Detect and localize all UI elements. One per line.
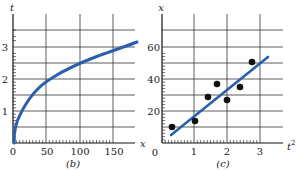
chart-c-points	[169, 59, 256, 131]
chart-c: 60 40 20 0 1 2 3 x t2 (c)	[147, 2, 295, 169]
chart-b-axes	[13, 14, 135, 143]
data-point	[205, 94, 212, 101]
data-point	[224, 97, 231, 104]
chart-b-grid	[13, 14, 135, 143]
chart-c-xtick-1: 1	[191, 146, 197, 157]
chart-b-ytick-1: 1	[2, 106, 8, 117]
chart-b-xlabel: x	[140, 138, 146, 149]
chart-b-ytick-3: 3	[2, 42, 8, 53]
chart-c-axes	[162, 14, 283, 143]
chart-b-xtick-50: 50	[41, 146, 54, 157]
chart-b-xtick-150: 150	[104, 146, 123, 157]
chart-b-caption: (b)	[66, 158, 80, 169]
chart-b-xtick-0: 0	[10, 146, 16, 157]
chart-c-caption: (c)	[216, 158, 230, 169]
chart-c-xlabel: t2	[287, 139, 296, 152]
chart-b: 3 2 1 0 50 100 150 t x (b)	[2, 2, 146, 169]
chart-c-xtick-2: 2	[224, 146, 230, 157]
data-point	[237, 84, 244, 91]
chart-b-ytick-2: 2	[2, 74, 8, 85]
data-point	[169, 124, 176, 131]
chart-c-ytick-60: 60	[147, 42, 160, 53]
chart-c-fit-line	[171, 57, 268, 135]
chart-c-xlabel-sup: 2	[291, 139, 295, 147]
chart-c-xtick-3: 3	[257, 146, 263, 157]
chart-c-grid	[162, 14, 283, 143]
chart-c-ytick-20: 20	[147, 106, 160, 117]
data-point	[249, 59, 256, 66]
chart-c-xtick-0: 0	[152, 147, 158, 158]
chart-b-curve	[14, 42, 137, 143]
data-point	[192, 118, 199, 125]
chart-b-xtick-100: 100	[70, 146, 89, 157]
figure-canvas: 3 2 1 0 50 100 150 t x (b)	[0, 0, 297, 170]
data-point	[214, 81, 221, 88]
chart-c-ytick-40: 40	[147, 74, 160, 85]
chart-b-ylabel: t	[10, 2, 15, 13]
chart-c-ylabel: x	[158, 2, 164, 13]
